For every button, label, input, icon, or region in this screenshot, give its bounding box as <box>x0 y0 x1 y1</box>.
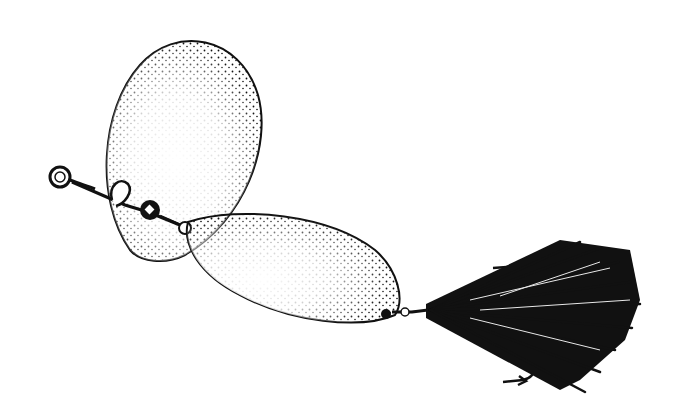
spinner-lure-illustration <box>0 0 675 415</box>
tail-dressing <box>426 240 640 392</box>
rear-blade <box>187 214 400 323</box>
line-tie-eye <box>50 167 95 189</box>
